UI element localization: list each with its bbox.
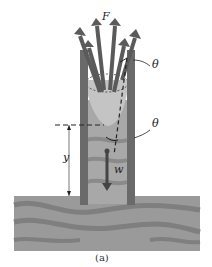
tube-wall-left [80, 50, 88, 205]
force-label: F [102, 10, 110, 23]
capillary-diagram [0, 0, 212, 267]
reservoir-wave [14, 239, 80, 241]
weight-label: w [114, 163, 123, 176]
theta-leader-bottom [134, 130, 150, 138]
height-label: y [63, 151, 69, 164]
theta-label-bottom: θ [152, 117, 159, 130]
figure-caption: (a) [95, 252, 109, 263]
tube-wall-right [127, 50, 135, 205]
theta-leader-top [133, 60, 150, 66]
height-arrow-bottom [67, 191, 71, 196]
weight-arrow-origin [105, 149, 110, 154]
theta-label-top: θ [152, 58, 159, 71]
height-arrow-top [67, 125, 71, 130]
